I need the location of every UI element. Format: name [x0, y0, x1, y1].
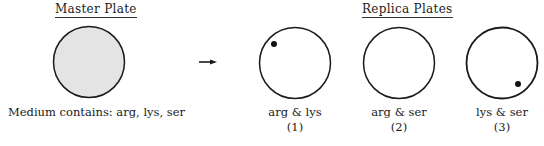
replica-plate-1 — [260, 28, 331, 99]
arrow-right-icon — [199, 60, 217, 65]
medium-label: Medium contains: arg, lys, ser — [8, 105, 185, 119]
plate-3-number: (3) — [462, 120, 542, 134]
plate-2-label: arg & ser — [359, 105, 439, 119]
replica-plate-2 — [364, 28, 435, 99]
plate-1-label: arg & lys — [255, 105, 335, 119]
colony-dot-3 — [515, 81, 521, 87]
master-plate — [54, 27, 125, 98]
plate-2-number: (2) — [359, 120, 439, 134]
colony-dot-1 — [271, 41, 277, 47]
plate-3-label: lys & ser — [462, 105, 542, 119]
replica-plate-3 — [467, 28, 538, 99]
plate-1-number: (1) — [255, 120, 335, 134]
